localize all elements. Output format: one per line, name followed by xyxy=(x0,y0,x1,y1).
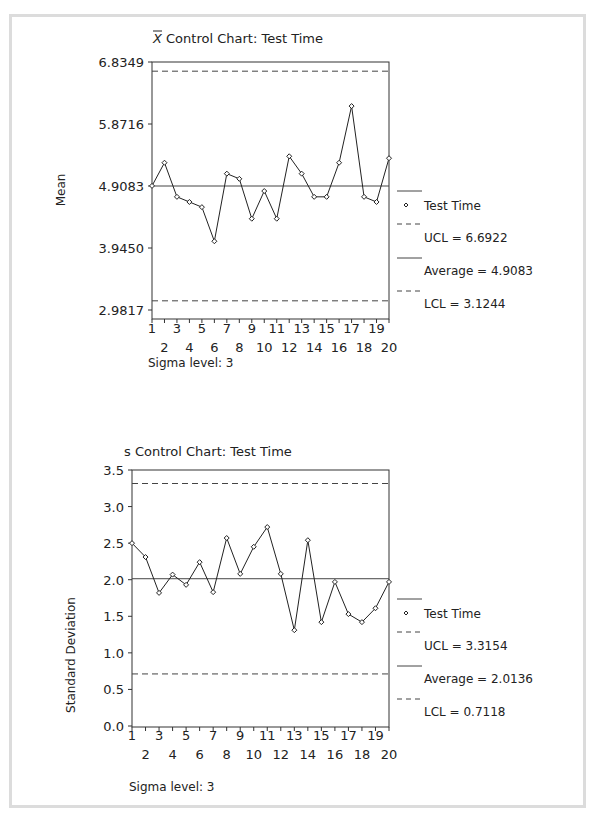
y-tick-label: 2.5 xyxy=(103,536,124,551)
x-tick-label: 13 xyxy=(286,728,303,743)
x-tick-label: 14 xyxy=(306,340,323,355)
x-tick-label: 4 xyxy=(185,340,193,355)
data-point xyxy=(238,571,243,576)
data-point xyxy=(319,620,324,625)
x-tick-label: 15 xyxy=(313,728,330,743)
x-tick-label: 6 xyxy=(210,340,218,355)
legend: Test TimeUCL = 3.3154Average = 2.0136LCL… xyxy=(397,599,533,719)
x-tick-label: 13 xyxy=(293,321,310,336)
x-tick-label: 9 xyxy=(236,728,244,743)
data-point xyxy=(278,571,283,576)
x-tick-label: 16 xyxy=(327,747,344,762)
chart-2: s Control Chart: Test TimeStandard Devia… xyxy=(64,444,533,794)
x-tick-label: 18 xyxy=(354,747,371,762)
y-tick-label: 0.0 xyxy=(103,719,124,734)
x-tick-label: 15 xyxy=(318,321,335,336)
y-tick-label: 2.0 xyxy=(103,573,124,588)
data-point xyxy=(374,199,379,204)
x-tick-label: 11 xyxy=(268,321,285,336)
legend-lcl: LCL = 3.1244 xyxy=(424,297,505,311)
legend-series: Test Time xyxy=(423,607,481,621)
x-tick-label: 17 xyxy=(343,321,360,336)
x-tick-label: 20 xyxy=(381,747,398,762)
x-tick-label: 19 xyxy=(368,321,385,336)
x-tick-label: 19 xyxy=(367,728,384,743)
legend-lcl: LCL = 0.7118 xyxy=(424,705,505,719)
data-point xyxy=(387,579,392,584)
data-point xyxy=(211,590,216,595)
legend-average: Average = 2.0136 xyxy=(424,672,533,686)
x-tick-label: 2 xyxy=(141,747,149,762)
x-tick-label: 3 xyxy=(155,728,163,743)
y-axis-label: Standard Deviation xyxy=(64,597,78,713)
y-tick-label: 3.5 xyxy=(103,463,124,478)
y-tick-label: 3.9450 xyxy=(99,241,145,256)
data-point xyxy=(292,628,297,633)
x-tick-label: 14 xyxy=(300,747,317,762)
x-tick-label: 1 xyxy=(128,728,136,743)
x-tick-label: 7 xyxy=(209,728,217,743)
x-tick-label: 11 xyxy=(259,728,276,743)
x-tick-label: 5 xyxy=(182,728,190,743)
x-tick-label: 1 xyxy=(148,321,156,336)
y-axis-label: Mean xyxy=(54,174,68,207)
legend-average: Average = 4.9083 xyxy=(424,264,533,278)
y-tick-label: 6.8349 xyxy=(99,55,145,70)
x-tick-label: 7 xyxy=(223,321,231,336)
data-point xyxy=(174,194,179,199)
data-point xyxy=(150,183,155,188)
y-tick-label: 1.0 xyxy=(103,646,124,661)
chart-1: X Control Chart: Test TimeMean6.83495.87… xyxy=(54,31,533,370)
chart-title: s Control Chart: Test Time xyxy=(124,444,292,459)
x-tick-label: 6 xyxy=(195,747,203,762)
x-tick-label: 8 xyxy=(223,747,231,762)
x-tick-label: 10 xyxy=(245,747,262,762)
x-tick-label: 9 xyxy=(248,321,256,336)
data-point xyxy=(362,194,367,199)
data-point xyxy=(249,216,254,221)
x-tick-label: 17 xyxy=(340,728,357,743)
y-tick-label: 0.5 xyxy=(103,682,124,697)
plot-area xyxy=(132,470,389,727)
legend-series: Test Time xyxy=(423,199,481,213)
data-point xyxy=(197,560,202,565)
x-tick-label: 18 xyxy=(356,340,373,355)
data-point xyxy=(346,612,351,617)
data-point xyxy=(387,156,392,161)
control-charts: X Control Chart: Test TimeMean6.83495.87… xyxy=(0,0,589,815)
y-tick-label: 1.5 xyxy=(103,609,124,624)
y-tick-label: 5.8716 xyxy=(99,117,145,132)
chart-title: X Control Chart: Test Time xyxy=(152,31,323,46)
x-tick-label: 12 xyxy=(273,747,290,762)
data-point xyxy=(162,160,167,165)
x-tick-label: 8 xyxy=(235,340,243,355)
data-point xyxy=(212,239,217,244)
legend: Test TimeUCL = 6.6922Average = 4.9083LCL… xyxy=(397,191,533,311)
x-tick-label: 4 xyxy=(168,747,176,762)
data-point xyxy=(332,579,337,584)
data-point xyxy=(349,104,354,109)
data-point xyxy=(312,194,317,199)
data-point xyxy=(187,199,192,204)
x-tick-label: 3 xyxy=(173,321,181,336)
data-point xyxy=(224,536,229,541)
series-line xyxy=(152,106,389,241)
legend-ucl: UCL = 3.3154 xyxy=(424,639,508,653)
x-tick-label: 5 xyxy=(198,321,206,336)
data-point xyxy=(274,216,279,221)
x-tick-label: 12 xyxy=(281,340,298,355)
y-tick-label: 2.9817 xyxy=(99,303,145,318)
data-point xyxy=(237,176,242,181)
x-tick-label: 2 xyxy=(160,340,168,355)
x-tick-label: 16 xyxy=(331,340,348,355)
x-tick-label: 10 xyxy=(256,340,273,355)
sigma-level-note: Sigma level: 3 xyxy=(148,356,233,370)
data-point xyxy=(262,189,267,194)
x-tick-label: 20 xyxy=(381,340,398,355)
data-point xyxy=(305,538,310,543)
plot-area xyxy=(152,62,389,319)
data-point xyxy=(224,171,229,176)
legend-ucl: UCL = 6.6922 xyxy=(424,231,508,245)
sigma-level-note: Sigma level: 3 xyxy=(129,780,214,794)
data-point xyxy=(337,160,342,165)
